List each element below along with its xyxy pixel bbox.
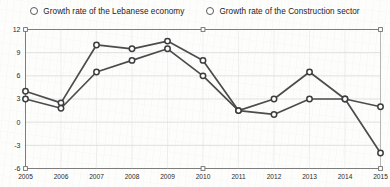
svg-text:-6: -6 [14,165,20,172]
svg-text:2011: 2011 [231,173,246,180]
svg-text:-3: -3 [14,142,20,149]
svg-text:0: 0 [17,119,21,126]
svg-text:2006: 2006 [54,173,69,180]
svg-text:2013: 2013 [302,173,317,180]
svg-text:12: 12 [13,26,21,33]
svg-text:2008: 2008 [125,173,140,180]
y-axis-tick-labels: 129630-3-6 [13,26,21,172]
svg-text:6: 6 [17,72,21,79]
svg-text:2015: 2015 [373,173,388,180]
plot-area: 129630-3-6 20052006200720082009201020112… [0,0,390,187]
line-chart: Growth rate of the Lebanese economy Grow… [0,0,390,187]
x-axis-tick-labels: 2005200620072008200920102011201220132014… [18,173,388,180]
svg-text:2005: 2005 [18,173,33,180]
svg-text:2009: 2009 [160,173,175,180]
svg-text:2012: 2012 [267,173,282,180]
svg-text:9: 9 [17,49,21,56]
svg-text:2007: 2007 [89,173,104,180]
svg-text:2010: 2010 [196,173,211,180]
svg-text:2014: 2014 [338,173,353,180]
svg-text:3: 3 [17,95,21,102]
